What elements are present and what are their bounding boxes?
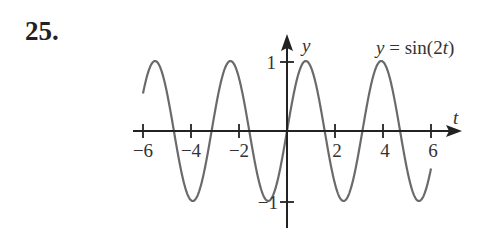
x-tick-label: −6 (133, 140, 153, 161)
x-tick-label: −4 (181, 140, 202, 161)
sine-chart: −6 −4 −2 2 4 6 1 −1 y t y = sin(2t) (0, 0, 496, 239)
y-axis-label: y (300, 35, 311, 56)
y-tick-label: 1 (267, 52, 277, 73)
x-axis-label: t (453, 107, 459, 128)
x-tick-label: 4 (380, 140, 390, 161)
x-tick-label: −2 (229, 140, 249, 161)
x-tick-label: 6 (428, 140, 438, 161)
y-tick-label: −1 (258, 192, 278, 213)
function-label-eq: = sin(2 (384, 37, 442, 59)
function-label-y: y (374, 37, 385, 58)
function-label-close: ) (448, 37, 454, 59)
function-label: y = sin(2t) (374, 37, 454, 59)
x-tick-label: 2 (332, 140, 342, 161)
